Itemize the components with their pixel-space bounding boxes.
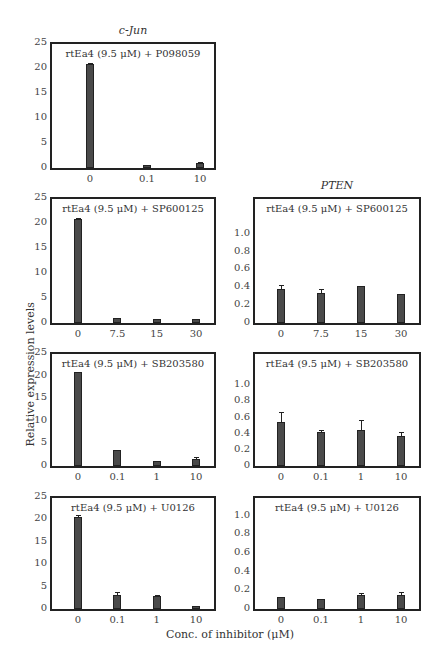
x-tick-label: 10 <box>386 614 416 625</box>
panel-title: rtEa4 (9.5 μM) + U0126 <box>255 502 419 513</box>
y-tick-label: 10 <box>23 414 47 425</box>
chart-panel: rtEa4 (9.5 μM) + P098059 <box>50 42 216 170</box>
y-tick-label: 0.6 <box>226 546 250 557</box>
x-tick-label: 0 <box>266 328 296 339</box>
bar <box>74 219 82 323</box>
error-cap <box>194 457 199 458</box>
x-tick-label: 15 <box>142 328 172 339</box>
y-tick-label: 1.0 <box>226 509 250 520</box>
x-tick-label: 10 <box>185 173 215 184</box>
error-cap <box>399 432 404 433</box>
error-cap <box>319 289 324 290</box>
x-tick-label: 30 <box>386 328 416 339</box>
y-tick-label: 0 <box>23 459 47 470</box>
y-tick-label: 0.2 <box>226 298 250 309</box>
x-tick-label: 1 <box>346 471 376 482</box>
bar <box>397 436 405 466</box>
bar <box>192 319 200 323</box>
y-tick-label: 0 <box>23 602 47 613</box>
y-tick-label: 5 <box>23 436 47 447</box>
bar <box>192 459 200 466</box>
bar <box>317 432 325 466</box>
bar <box>196 163 204 168</box>
x-tick-label: 0.1 <box>102 471 132 482</box>
y-tick-label: 20 <box>23 369 47 380</box>
gene-label-pten: PTEN <box>297 179 377 192</box>
bar <box>153 319 161 324</box>
error-cap <box>359 593 364 594</box>
bar <box>143 165 151 169</box>
y-tick-label: 0 <box>226 602 250 613</box>
error-cap <box>198 162 203 163</box>
y-tick-label: 0.6 <box>226 411 250 422</box>
bar <box>317 599 325 609</box>
y-tick-label: 0.8 <box>226 245 250 256</box>
bar <box>113 595 121 609</box>
y-tick-label: 20 <box>23 512 47 523</box>
x-tick-label: 10 <box>181 614 211 625</box>
y-tick-label: 0.4 <box>226 280 250 291</box>
x-tick-label: 0.1 <box>102 614 132 625</box>
bar <box>357 595 365 609</box>
y-tick-label: 0.6 <box>226 262 250 273</box>
y-tick-label: 15 <box>23 535 47 546</box>
y-tick-label: 15 <box>23 391 47 402</box>
bar <box>277 289 285 323</box>
error-bar <box>281 412 282 422</box>
y-tick-label: 1.0 <box>226 378 250 389</box>
error-cap <box>279 285 284 286</box>
y-tick-label: 0.8 <box>226 527 250 538</box>
y-tick-label: 15 <box>23 86 47 97</box>
error-cap <box>399 592 404 593</box>
error-cap <box>88 63 93 64</box>
x-tick-label: 0.1 <box>132 173 162 184</box>
bar <box>153 596 161 609</box>
bar <box>397 294 405 323</box>
x-tick-label: 0 <box>63 471 93 482</box>
y-tick-label: 15 <box>23 241 47 252</box>
y-tick-label: 25 <box>23 490 47 501</box>
x-tick-label: 10 <box>386 471 416 482</box>
error-cap <box>76 515 81 516</box>
x-tick-label: 0 <box>266 471 296 482</box>
x-tick-label: 1 <box>142 614 172 625</box>
y-tick-label: 10 <box>23 266 47 277</box>
error-cap <box>155 595 160 596</box>
bar <box>397 595 405 609</box>
x-tick-label: 30 <box>181 328 211 339</box>
bar <box>74 372 82 466</box>
panel-title: rtEa4 (9.5 μM) + SP600125 <box>52 203 214 214</box>
bar <box>357 430 365 466</box>
bar <box>113 450 121 466</box>
x-tick-label: 0.1 <box>306 614 336 625</box>
y-tick-label: 0.2 <box>226 443 250 454</box>
bar <box>86 64 94 168</box>
error-cap <box>279 412 284 413</box>
y-tick-label: 0.8 <box>226 394 250 405</box>
y-tick-label: 0.2 <box>226 583 250 594</box>
bar <box>317 293 325 323</box>
error-cap <box>76 218 81 219</box>
chart-panel: rtEa4 (9.5 μM) + U0126 <box>253 496 421 611</box>
bar <box>277 597 285 609</box>
x-tick-label: 0 <box>63 328 93 339</box>
panel-title: rtEa4 (9.5 μM) + SP600125 <box>255 203 419 214</box>
y-tick-label: 0 <box>23 316 47 327</box>
x-tick-label: 1 <box>142 471 172 482</box>
x-tick-label: 0.1 <box>306 471 336 482</box>
y-tick-label: 10 <box>23 557 47 568</box>
y-tick-label: 5 <box>23 580 47 591</box>
gene-label-cjun: c-Jun <box>93 24 173 37</box>
x-tick-label: 7.5 <box>102 328 132 339</box>
bar <box>277 422 285 466</box>
bar <box>357 286 365 323</box>
error-cap <box>115 592 120 593</box>
y-tick-label: 25 <box>23 346 47 357</box>
x-tick-label: 0 <box>63 614 93 625</box>
x-tick-label: 10 <box>181 471 211 482</box>
panel-title: rtEa4 (9.5 μM) + SB203580 <box>255 358 419 369</box>
y-tick-label: 20 <box>23 61 47 72</box>
x-tick-label: 7.5 <box>306 328 336 339</box>
bar <box>113 318 121 324</box>
error-cap <box>319 430 324 431</box>
